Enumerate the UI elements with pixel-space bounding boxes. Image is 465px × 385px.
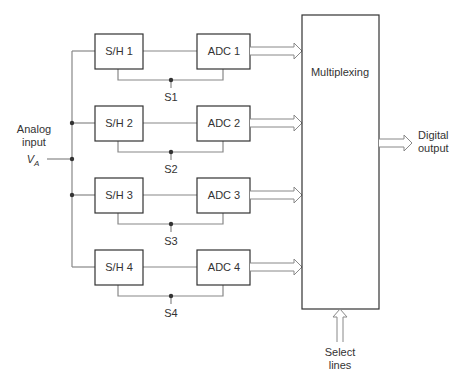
output-label-line2: output bbox=[418, 142, 449, 154]
multiplexer-block bbox=[302, 15, 379, 309]
switch-label-1: S1 bbox=[164, 91, 177, 103]
sh-label-1: S/H 1 bbox=[105, 45, 133, 57]
switch-label-2: S2 bbox=[164, 163, 177, 175]
select-label-line1: Select bbox=[325, 346, 356, 358]
adc-label-2: ADC 2 bbox=[208, 117, 240, 129]
channel-3: S/H 3 ADC 3 S3 bbox=[95, 178, 302, 247]
block-diagram: Analog input VA S/H 1 ADC 1 S1 S/H 2 ADC… bbox=[0, 0, 465, 385]
multiplexer-label: Multiplexing bbox=[311, 66, 369, 78]
bus-arrow-3 bbox=[250, 187, 302, 203]
adc-label-3: ADC 3 bbox=[208, 189, 240, 201]
output-arrow bbox=[379, 135, 412, 151]
channel-1: S/H 1 ADC 1 S1 bbox=[95, 34, 302, 103]
select-lines-arrow bbox=[333, 309, 347, 342]
bus-arrow-1 bbox=[250, 43, 302, 59]
input-label-line2: input bbox=[22, 136, 46, 148]
adc-label-1: ADC 1 bbox=[208, 45, 240, 57]
adc-label-4: ADC 4 bbox=[208, 261, 240, 273]
sh-label-2: S/H 2 bbox=[105, 117, 133, 129]
channel-2: S/H 2 ADC 2 S2 bbox=[95, 106, 302, 175]
switch-label-3: S3 bbox=[164, 235, 177, 247]
channel-4: S/H 4 ADC 4 S4 bbox=[95, 250, 302, 319]
select-label-line2: lines bbox=[329, 359, 352, 371]
input-label-line1: Analog bbox=[17, 123, 51, 135]
sh-label-3: S/H 3 bbox=[105, 189, 133, 201]
bus-arrow-4 bbox=[250, 259, 302, 275]
switch-label-4: S4 bbox=[164, 307, 177, 319]
bus-arrow-2 bbox=[250, 115, 302, 131]
input-symbol: VA bbox=[27, 153, 40, 168]
sh-label-4: S/H 4 bbox=[105, 261, 133, 273]
output-label-line1: Digital bbox=[418, 129, 449, 141]
